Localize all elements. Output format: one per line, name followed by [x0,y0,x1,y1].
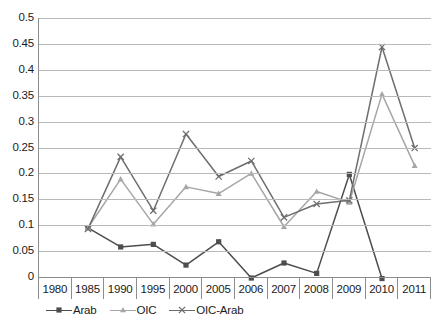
y-tick-label: 0.25 [0,142,34,154]
x-axis: 1980198519901995200020052006200720082009… [38,277,431,299]
gridline [39,18,431,19]
data-point-square-marker [151,242,156,247]
x-tick-label: 2006 [235,278,268,299]
legend-swatch-triangle-icon [110,305,136,316]
plot-area [38,18,431,277]
y-tick-label: 0.1 [0,219,34,231]
data-point-triangle-marker [314,188,320,193]
legend-item-arab[interactable]: Arab [46,304,97,316]
legend-marker-triangle-icon [118,305,128,315]
data-point-square-marker [183,262,188,267]
y-tick-label: 0.15 [0,194,34,206]
data-point-cross-marker [248,158,254,164]
gridline [39,199,431,200]
data-point-cross-marker [281,214,287,220]
data-point-triangle-marker [120,306,126,311]
y-tick-label: 0.2 [0,168,34,180]
x-tick-label: 2000 [170,278,203,299]
x-tick-label: 2009 [333,278,366,299]
gridline [39,251,431,252]
legend-label: Arab [73,304,97,316]
x-tick-label: 2010 [366,278,399,299]
data-point-square-marker [56,307,61,312]
data-point-cross-marker [183,131,189,137]
data-point-triangle-marker [118,176,124,181]
line-chart: 00.050.10.150.20.250.30.350.40.450.5 198… [0,0,439,321]
data-point-triangle-marker [183,184,189,189]
y-tick-label: 0.35 [0,90,34,102]
legend-swatch-square-icon [46,305,72,316]
y-tick-label: 0.4 [0,64,34,76]
legend-marker-square-icon [54,305,64,315]
x-tick-label: 2011 [398,278,431,299]
series-line [88,174,382,278]
gridline [39,96,431,97]
series-arab [85,172,384,281]
y-tick-label: 0.3 [0,116,34,128]
gridline [39,173,431,174]
legend-marker-cross-icon [177,305,187,315]
chart-legend: ArabOICOIC-Arab [38,301,431,319]
data-point-cross-marker [179,306,185,312]
series-oic-arab [85,44,418,232]
y-tick-label: 0.05 [0,245,34,257]
legend-label: OIC [137,304,157,316]
data-point-cross-marker [150,208,156,214]
data-point-square-marker [216,239,221,244]
gridline [39,122,431,123]
data-point-triangle-marker [412,163,418,168]
x-tick-label: 1990 [104,278,137,299]
x-tick-label: 2005 [202,278,235,299]
legend-swatch-cross-icon [169,305,195,316]
legend-item-oic[interactable]: OIC [110,304,157,316]
x-tick-label: 1995 [137,278,170,299]
y-axis: 00.050.10.150.20.250.30.350.40.450.5 [0,0,34,321]
data-point-square-marker [281,260,286,265]
gridline [39,148,431,149]
x-tick-label: 1980 [38,278,72,299]
data-point-square-marker [118,244,123,249]
x-tick-label: 2007 [268,278,301,299]
x-tick-label: 1985 [72,278,105,299]
gridline [39,225,431,226]
data-point-cross-marker [118,154,124,160]
gridline [39,70,431,71]
y-tick-label: 0.45 [0,38,34,50]
y-tick-label: 0 [0,271,34,283]
y-tick-label: 0.5 [0,12,34,24]
x-tick-label: 2008 [300,278,333,299]
legend-label: OIC-Arab [196,304,243,316]
gridline [39,44,431,45]
legend-item-oic-arab[interactable]: OIC-Arab [169,304,243,316]
data-point-square-marker [314,271,319,276]
